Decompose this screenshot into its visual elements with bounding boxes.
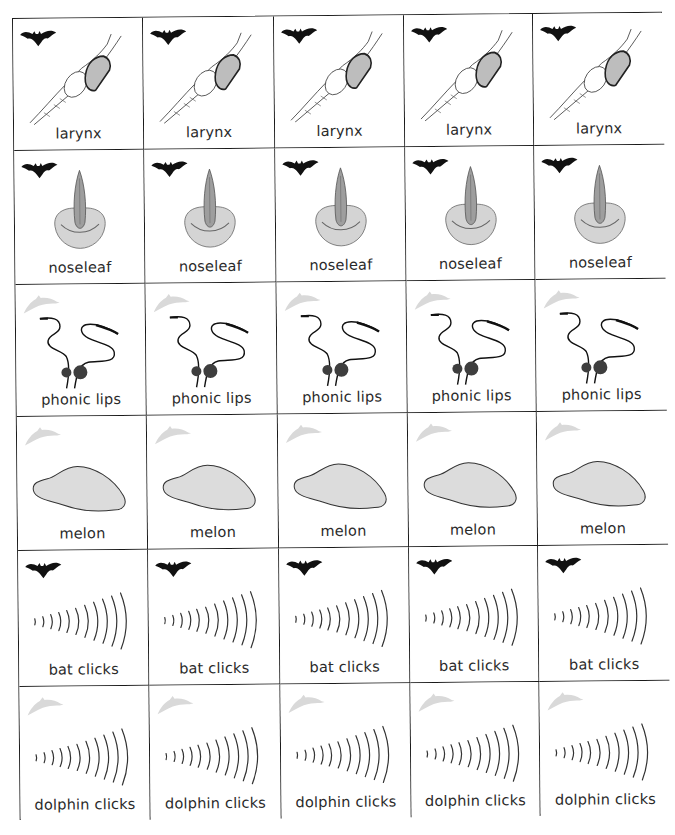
larynx-illustration [543,27,654,120]
card-larynx[interactable]: larynx [274,15,405,148]
card-larynx[interactable]: larynx [143,16,275,149]
card-bat-clicks[interactable]: bat clicks [148,548,280,685]
card-phonic-lips[interactable]: phonic lips [277,281,408,414]
sound-waves-illustration [289,561,400,654]
card-label: noseleaf [406,255,534,272]
melon-illustration [288,427,399,520]
larynx-illustration [23,32,134,125]
card-bat-clicks[interactable]: bat clicks [18,550,149,687]
card-label: melon [18,525,147,542]
card-label: melon [409,521,537,538]
phonic-lips-illustration [287,295,398,388]
card-label: larynx [144,123,274,140]
card-label: phonic lips [278,388,407,405]
larynx-illustration [414,28,525,121]
card-label: phonic lips [408,387,536,404]
card-label: phonic lips [537,386,667,403]
larynx-illustration [414,28,525,121]
card-label: phonic lips [147,389,277,406]
noseleaf-illustration [544,159,655,252]
card-dolphin-clicks[interactable]: dolphin clicks [19,686,150,821]
card-melon[interactable]: melon [17,416,148,551]
card-label: melon [148,523,278,540]
card-phonic-lips[interactable]: phonic lips [536,279,667,412]
melon-illustration [547,425,658,518]
sound-waves-illustration [28,564,139,657]
sound-waves-illustration [550,695,661,788]
card-label: noseleaf [145,257,275,274]
card-larynx[interactable]: larynx [533,13,664,146]
sound-waves-illustration [289,561,400,654]
sound-waves-illustration [421,696,532,789]
phonic-lips-illustration [156,297,267,390]
card-dolphin-clicks[interactable]: dolphin clicks [539,681,670,816]
noseleaf-illustration [24,164,135,257]
card-label: noseleaf [535,254,665,271]
card-dolphin-clicks[interactable]: dolphin clicks [280,683,411,818]
sound-waves-illustration [30,700,141,793]
card-noseleaf[interactable]: noseleaf [144,148,276,283]
sound-waves-illustration [30,700,141,793]
larynx-illustration [284,29,395,122]
card-bat-clicks[interactable]: bat clicks [279,547,410,684]
card-melon[interactable]: melon [408,412,538,547]
sound-waves-illustration [28,564,139,657]
melon-illustration [288,427,399,520]
phonic-lips-illustration [156,297,267,390]
card-dolphin-clicks[interactable]: dolphin clicks [410,682,540,817]
card-label: bat clicks [539,656,669,673]
phonic-lips-illustration [546,293,657,386]
noseleaf-illustration [544,159,655,252]
melon-illustration [547,425,658,518]
sound-waves-illustration [548,559,659,652]
melon-illustration [418,426,529,519]
card-melon[interactable]: melon [537,411,668,546]
card-label: larynx [14,125,143,142]
larynx-illustration [23,32,134,125]
card-melon[interactable]: melon [278,413,409,548]
card-label: melon [538,520,668,537]
card-label: dolphin clicks [150,794,280,811]
card-label: larynx [275,122,404,139]
card-label: dolphin clicks [20,796,149,813]
card-phonic-lips[interactable]: phonic lips [146,282,278,415]
card-dolphin-clicks[interactable]: dolphin clicks [149,684,281,819]
card-label: dolphin clicks [411,792,539,809]
card-label: bat clicks [149,659,279,676]
melon-illustration [157,429,268,522]
noseleaf-illustration [415,160,526,253]
card-label: dolphin clicks [540,791,670,808]
sound-waves-illustration [160,699,271,792]
sound-waves-illustration [550,695,661,788]
card-noseleaf[interactable]: noseleaf [275,147,406,282]
sound-waves-illustration [158,563,269,656]
card-bat-clicks[interactable]: bat clicks [538,545,669,682]
card-phonic-lips[interactable]: phonic lips [407,280,537,413]
card-larynx[interactable]: larynx [404,14,534,147]
card-label: bat clicks [280,658,409,675]
card-label: larynx [534,120,664,137]
card-noseleaf[interactable]: noseleaf [534,145,665,280]
card-noseleaf[interactable]: noseleaf [405,146,535,281]
card-noseleaf[interactable]: noseleaf [14,150,145,285]
noseleaf-illustration [285,161,396,254]
noseleaf-illustration [415,160,526,253]
phonic-lips-illustration [287,295,398,388]
card-label: noseleaf [276,256,405,273]
card-label: noseleaf [15,259,144,276]
card-melon[interactable]: melon [147,414,279,549]
melon-illustration [157,429,268,522]
larynx-illustration [284,29,395,122]
sound-waves-illustration [158,563,269,656]
phonic-lips-illustration [546,293,657,386]
card-label: melon [279,522,408,539]
card-label: dolphin clicks [281,793,410,810]
card-label: bat clicks [19,661,148,678]
card-phonic-lips[interactable]: phonic lips [16,284,147,417]
card-larynx[interactable]: larynx [13,18,144,151]
sound-waves-illustration [419,560,530,653]
phonic-lips-illustration [417,294,528,387]
card-bat-clicks[interactable]: bat clicks [409,546,539,683]
noseleaf-illustration [154,163,265,256]
card-label: larynx [405,121,533,138]
